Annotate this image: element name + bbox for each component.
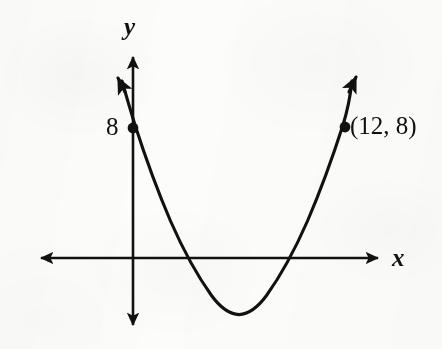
parabola-curve xyxy=(122,81,352,315)
right-point-label: (12, 8) xyxy=(350,113,417,138)
y-intercept-label: 8 xyxy=(106,114,119,139)
right-point-dot xyxy=(340,122,351,133)
y-intercept-dot xyxy=(128,123,139,134)
y-axis-label: y xyxy=(124,14,135,39)
figure-canvas: y x 8 (12, 8) xyxy=(0,0,442,349)
parabola-figure xyxy=(0,0,442,349)
x-axis-label: x xyxy=(392,245,405,270)
